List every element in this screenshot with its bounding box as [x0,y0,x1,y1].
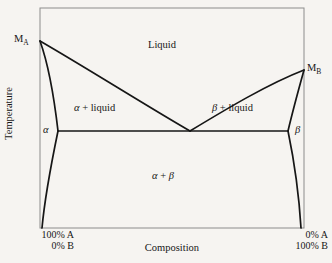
composition-label-left: 100% A 0% B [6,230,74,251]
liquidus-curve-b [190,70,304,131]
composition-right-line1: 0% A [256,230,328,241]
region-label-alpha-plus-liquid: α + liquid [74,102,115,113]
melting-point-b-subscript: B [316,67,321,76]
region-label-alpha: α [43,124,49,135]
solvus-curve-beta [288,131,301,228]
region-label-liquid: Liquid [148,39,176,50]
alpha-beta-plus: + [158,170,169,181]
composition-left-line2: 0% B [6,241,74,252]
beta-plus-liquid-rest: + liquid [217,102,253,113]
y-axis-title: Temperature [3,74,14,154]
composition-left-line1: 100% A [6,230,74,241]
melting-point-a-label: MA [14,33,29,47]
melting-point-b-text: M [307,62,316,73]
solvus-curve-alpha [42,131,58,228]
region-label-alpha-plus-beta: α + β [152,170,174,181]
phase-diagram-figure: Temperature Composition MA MB Liquid α +… [0,0,332,263]
composition-label-right: 0% A 100% B [256,230,328,251]
solidus-curve-alpha [40,41,58,131]
solidus-curve-beta [288,70,304,131]
alpha-plus-liquid-rest: + liquid [80,102,116,113]
x-axis-title: Composition [134,242,210,253]
beta-glyph-2: β [169,170,174,181]
composition-right-line2: 100% B [256,241,328,252]
melting-point-a-text: M [14,33,23,44]
melting-point-a-subscript: A [23,38,28,47]
region-label-beta-plus-liquid: β + liquid [212,102,253,113]
melting-point-b-label: MB [307,62,321,76]
region-label-beta: β [295,124,300,135]
liquidus-curve-a [40,41,190,131]
